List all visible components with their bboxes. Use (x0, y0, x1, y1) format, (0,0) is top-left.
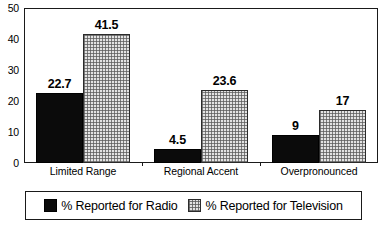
legend-item-label: % Reported for Radio (61, 199, 177, 213)
bar-value-label: 22.7 (36, 78, 83, 91)
x-axis-category-label: Limited Range (24, 165, 142, 177)
bar-value-label: 9 (272, 120, 319, 133)
y-axis-tick-label: 10 (8, 127, 19, 138)
bar-radio (36, 93, 83, 163)
x-axis-category-label: Regional Accent (142, 165, 260, 177)
x-axis: Limited RangeRegional AccentOverpronounc… (24, 165, 378, 183)
legend-item-label: % Reported for Television (205, 199, 342, 213)
bar-television (319, 110, 366, 163)
y-axis-tick-label: 20 (8, 96, 19, 107)
legend-item: % Reported for Radio (44, 199, 177, 213)
y-axis-tick-label: 50 (8, 3, 19, 14)
y-axis-tick-label: 0 (13, 158, 19, 169)
y-axis-tick-label: 30 (8, 65, 19, 76)
x-axis-category-label: Overpronounced (260, 165, 378, 177)
hatched-square-swatch (188, 199, 201, 212)
bar-chart-figure: 01020304050 22.741.54.523.6917 Limited R… (0, 0, 390, 230)
bar-value-label: 41.5 (83, 19, 130, 32)
bar-television (201, 90, 248, 163)
bar-value-label: 17 (319, 95, 366, 108)
x-axis-tick-mark (142, 163, 143, 166)
legend-item: % Reported for Television (188, 199, 342, 213)
bar-value-label: 23.6 (201, 75, 248, 88)
chart-legend: % Reported for Radio% Reported for Telev… (25, 191, 362, 220)
bar-radio (272, 135, 319, 163)
y-axis: 01020304050 (0, 0, 24, 171)
y-axis-tick-label: 40 (8, 34, 19, 45)
bar-value-label: 4.5 (154, 134, 201, 147)
bar-radio (154, 149, 201, 163)
x-axis-tick-mark (260, 163, 261, 166)
black-square-swatch (44, 199, 57, 212)
bars-layer: 22.741.54.523.6917 (24, 8, 378, 163)
bar-television (83, 34, 130, 163)
